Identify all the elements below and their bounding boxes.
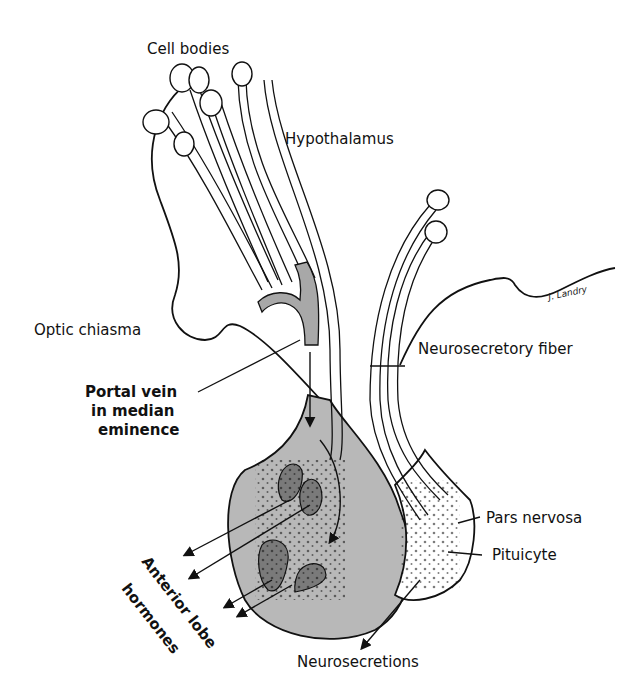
neuron-cell-bodies-left bbox=[143, 62, 252, 156]
label-pituicyte: Pituicyte bbox=[492, 546, 557, 564]
label-optic-chiasma: Optic chiasma bbox=[34, 321, 141, 339]
label-neurosecretory-fiber: Neurosecretory fiber bbox=[418, 340, 573, 358]
label-cell-bodies: Cell bodies bbox=[147, 40, 229, 58]
label-portal-vein-2: in median bbox=[91, 402, 175, 420]
label-portal-vein-3: eminence bbox=[98, 421, 180, 439]
label-hypothalamus: Hypothalamus bbox=[285, 130, 394, 148]
label-portal-vein-1: Portal vein bbox=[85, 383, 177, 401]
neurosecretion-dots bbox=[400, 480, 460, 590]
label-neurosecretions: Neurosecretions bbox=[297, 653, 419, 671]
neuron-cell-bodies-right bbox=[425, 190, 449, 243]
label-pars-nervosa: Pars nervosa bbox=[486, 509, 582, 527]
